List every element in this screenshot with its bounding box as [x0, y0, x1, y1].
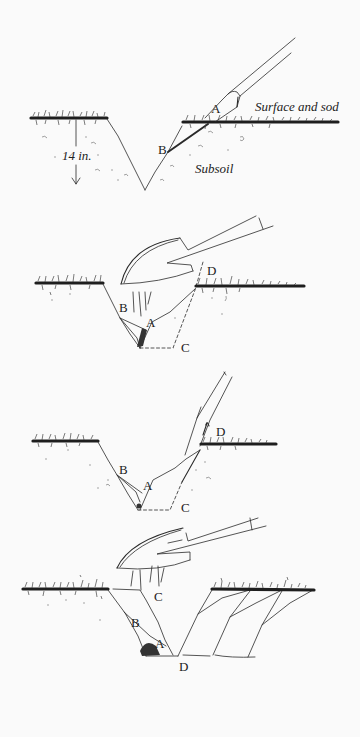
label-b: B	[119, 300, 128, 315]
trenching-diagram: A B Surface and sod Subsoil 14 in.	[0, 0, 360, 737]
sod-left	[23, 575, 108, 599]
label-c: C	[154, 589, 163, 604]
label-b: B	[158, 142, 167, 157]
label-a: A	[155, 636, 165, 651]
panel-1: A B Surface and sod Subsoil 14 in.	[31, 38, 339, 190]
spade-4	[117, 518, 266, 590]
sod-right	[212, 577, 314, 590]
panel-4: C B A D	[23, 518, 314, 674]
label-d: D	[216, 424, 225, 439]
label-d: D	[179, 659, 188, 674]
label-d: D	[207, 263, 216, 278]
panel-3: B A C D	[33, 372, 276, 515]
label-a: A	[146, 315, 156, 330]
label-depth: 14 in.	[62, 148, 92, 163]
label-b: B	[119, 462, 128, 477]
subsoil-pebbles	[47, 599, 101, 621]
label-c: C	[181, 500, 190, 515]
label-c: C	[181, 340, 190, 355]
spade-2	[121, 216, 273, 316]
sod-right	[201, 437, 276, 450]
label-a: A	[143, 478, 153, 493]
panel-2: B A C D	[36, 216, 304, 355]
sod-right	[196, 276, 304, 294]
label-a: A	[211, 101, 221, 116]
sod-left	[33, 433, 98, 447]
sod-left	[31, 110, 107, 125]
sod-left	[36, 274, 103, 295]
label-surface-and-sod: Surface and sod	[255, 99, 339, 114]
label-b: B	[131, 615, 140, 630]
label-subsoil: Subsoil	[195, 161, 234, 176]
subsoil-pebbles	[51, 293, 226, 331]
